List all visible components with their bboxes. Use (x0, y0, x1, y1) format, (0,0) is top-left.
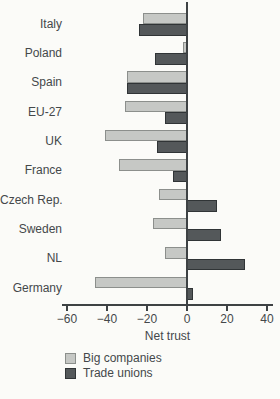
bar-italy-trade-unions (139, 24, 187, 36)
bar-italy-big-companies (143, 13, 187, 25)
bar-nl-big-companies (165, 247, 187, 259)
legend: Big companies Trade unions (65, 351, 162, 381)
x-axis-title: Net trust (62, 329, 273, 343)
category-label-poland: Poland (0, 46, 62, 61)
x-tick-label-20: −20 (129, 312, 165, 326)
x-tick-label-40: −40 (89, 312, 125, 326)
x-tick-label-20: 20 (209, 312, 245, 326)
legend-label-big-companies: Big companies (83, 351, 162, 366)
x-tick-20 (146, 306, 148, 311)
zero-axis-line (186, 2, 188, 305)
category-label-czech-rep: Czech Rep. (0, 193, 62, 208)
bar-sweden-trade-unions (187, 229, 221, 241)
category-label-germany: Germany (0, 281, 62, 296)
legend-item-big-companies: Big companies (65, 351, 162, 366)
x-tick-0 (186, 306, 188, 311)
x-axis-line (62, 304, 273, 306)
bar-germany-big-companies (95, 277, 187, 289)
bar-czech-rep-trade-unions (187, 200, 217, 212)
legend-swatch-trade-unions (65, 368, 76, 379)
category-label-italy: Italy (0, 17, 62, 32)
x-tick-40 (106, 306, 108, 311)
bar-france-trade-unions (173, 171, 187, 183)
bar-eu-27-trade-unions (165, 112, 187, 124)
category-label-nl: NL (0, 251, 62, 266)
legend-label-trade-unions: Trade unions (83, 366, 153, 381)
x-tick-60 (66, 306, 68, 311)
x-tick-40 (266, 306, 268, 311)
x-tick-label-60: −60 (49, 312, 85, 326)
category-label-france: France (0, 163, 62, 178)
bar-spain-trade-unions (127, 83, 187, 95)
net-trust-bar-chart: ItalyPolandSpainEU-27UKFranceCzech Rep.S… (0, 0, 280, 399)
bar-poland-trade-unions (155, 53, 187, 65)
bar-sweden-big-companies (153, 218, 187, 230)
bar-eu-27-big-companies (125, 101, 187, 113)
bar-uk-big-companies (105, 130, 187, 142)
category-label-uk: UK (0, 134, 62, 149)
category-label-eu-27: EU-27 (0, 105, 62, 120)
bar-france-big-companies (119, 159, 187, 171)
bar-czech-rep-big-companies (159, 189, 187, 201)
category-label-spain: Spain (0, 75, 62, 90)
x-tick-label-40: 40 (249, 312, 280, 326)
legend-swatch-big-companies (65, 353, 76, 364)
bar-nl-trade-unions (187, 259, 245, 271)
bar-uk-trade-unions (157, 141, 187, 153)
legend-item-trade-unions: Trade unions (65, 366, 162, 381)
x-tick-label-0: 0 (169, 312, 205, 326)
bar-spain-big-companies (127, 71, 187, 83)
x-tick-20 (226, 306, 228, 311)
category-label-sweden: Sweden (0, 222, 62, 237)
